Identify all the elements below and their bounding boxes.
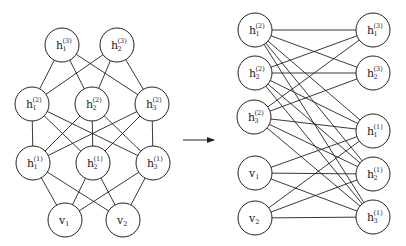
layered-node-v1: v1 [48, 203, 82, 237]
bipartite-node-h3-layer2: h(2)3 [237, 100, 271, 134]
bipartite-node-h2-layer3: h(3)2 [356, 56, 390, 90]
bipartite-node-h2-layer2: h(2)2 [238, 56, 272, 90]
layered-node-h3-layer1: h(1)3 [136, 146, 170, 180]
layered-graph-edges [32, 45, 153, 220]
layered-node-h1-layer3: h(3)1 [45, 28, 79, 62]
bipartite-edge [254, 117, 373, 131]
bipartite-edge [255, 131, 373, 218]
bipartite-node-v1: v1 [238, 156, 272, 190]
bipartite-edge [254, 117, 373, 174]
layered-node-h1-layer2: h(2)1 [15, 87, 49, 121]
bipartite-node-h1-layer3: h(3)1 [356, 13, 390, 47]
bipartite-node-h3-layer1: h(1)3 [356, 200, 390, 234]
bipartite-edge [255, 73, 373, 174]
bipartite-edge [255, 30, 373, 131]
bipartite-graph-edges [254, 30, 373, 218]
layered-node-v2: v2 [106, 203, 140, 237]
bipartite-edge [255, 173, 373, 174]
bipartite-edge [255, 217, 373, 218]
bipartite-edge [255, 73, 373, 131]
layered-node-h2-layer3: h(3)2 [100, 28, 134, 62]
layered-node-h3-layer2: h(2)3 [135, 87, 169, 121]
diagram-canvas: h(3)1h(3)2h(2)1h(2)2h(2)3h(1)1h(1)2h(1)3… [0, 0, 406, 246]
bipartite-node-h1-layer1: h(1)1 [356, 114, 390, 148]
layered-node-h1-layer1: h(1)1 [16, 146, 50, 180]
layered-node-h2-layer2: h(2)2 [75, 87, 109, 121]
bipartite-node-h2-layer1: h(1)2 [356, 157, 390, 191]
bipartite-node-v2: v2 [238, 201, 272, 235]
layered-node-h2-layer1: h(1)2 [76, 146, 110, 180]
bipartite-node-h1-layer2: h(2)1 [238, 13, 272, 47]
